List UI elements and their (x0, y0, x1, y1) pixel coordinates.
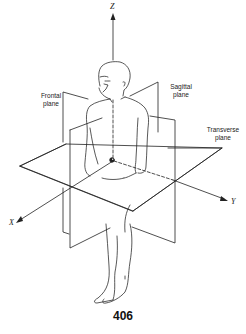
z-axis (111, 13, 116, 60)
sagittal-plane-label: Sagittal plane (161, 83, 201, 98)
frontal-plane-label: Frontal plane (34, 92, 68, 107)
y-axis (173, 180, 228, 201)
sagittal-plane-label-line1: Sagittal (161, 83, 201, 91)
figure-drawing (0, 0, 246, 334)
transverse-plane-label-line1: Transverse (200, 126, 246, 134)
page-number: 406 (100, 309, 146, 323)
sagittal-plane-label-line2: plane (161, 91, 201, 99)
transverse-plane-label-line2: plane (200, 134, 246, 142)
x-axis-label: X (9, 219, 14, 227)
transverse-plane-label: Transverse plane (200, 126, 246, 141)
z-axis-label: Z (110, 3, 114, 11)
frontal-plane-label-line2: plane (34, 100, 68, 108)
y-axis-label: Y (231, 198, 235, 206)
anatomical-planes-figure: Z Frontal plane Sagittal plane Transvers… (0, 0, 246, 334)
frontal-plane-label-line1: Frontal (34, 92, 68, 100)
